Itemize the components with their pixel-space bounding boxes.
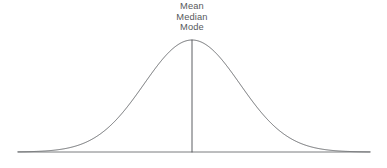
normal-distribution-figure: Mean Median Mode	[0, 0, 387, 168]
plot-background	[0, 0, 387, 168]
distribution-plot	[0, 0, 387, 168]
